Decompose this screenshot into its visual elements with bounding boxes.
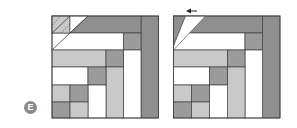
white-strip-row3	[174, 67, 210, 85]
white-strip-row1	[52, 33, 124, 50]
center-r5c1	[192, 102, 210, 118]
center-r4c0	[52, 85, 70, 102]
arrow-layer	[186, 9, 197, 14]
white-strip-col4	[124, 50, 142, 118]
light-strip-col3	[228, 67, 246, 118]
square-r3c2	[88, 67, 106, 85]
square-r1c4	[124, 33, 142, 50]
center-r5c0	[52, 102, 70, 118]
blocks-layer	[52, 16, 280, 118]
quilt-diagram	[0, 0, 297, 128]
center-r5c0	[174, 102, 192, 118]
figure-label: E	[27, 103, 33, 112]
center-r4c1	[70, 85, 88, 102]
figure-label-badge: E	[24, 101, 37, 114]
white-strip-col4	[245, 50, 263, 118]
white-strip-col2	[88, 85, 106, 118]
square-r2c3	[228, 50, 246, 67]
square-r2c3	[106, 50, 124, 67]
white-strip-col2	[210, 85, 228, 118]
light-strip-col3	[106, 67, 124, 118]
outer-right-strip	[263, 16, 281, 118]
arrowhead-icon	[186, 9, 191, 14]
left-block	[52, 16, 159, 118]
square-r3c2	[210, 67, 228, 85]
white-strip-row3	[52, 67, 88, 85]
right-block	[174, 16, 281, 118]
outer-right-strip	[141, 16, 159, 118]
center-r5c1	[70, 102, 88, 118]
square-r1c4	[245, 33, 263, 50]
light-strip-row2	[52, 50, 106, 67]
center-r4c1	[192, 85, 210, 102]
center-r4c0	[174, 85, 192, 102]
light-strip-row2	[174, 50, 228, 67]
